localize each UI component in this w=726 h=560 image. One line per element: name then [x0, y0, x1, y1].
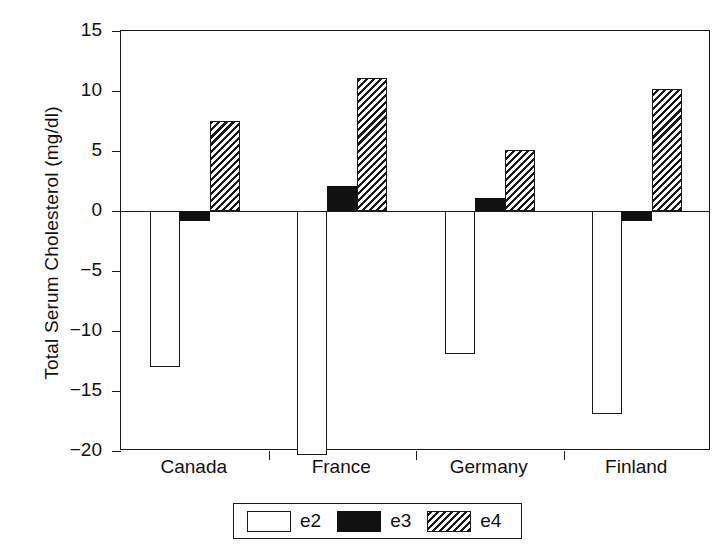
- legend-label-e4: e4: [480, 510, 501, 532]
- y-tick: [112, 31, 121, 32]
- bar-finland-e2: [592, 211, 622, 414]
- legend-swatch-e2: [247, 511, 291, 532]
- bar-finland-e4: [652, 89, 682, 211]
- bar-canada-e3: [180, 211, 210, 221]
- y-tick: [112, 331, 121, 332]
- y-tick: [112, 91, 121, 92]
- y-tick-label: 5: [38, 140, 102, 159]
- y-tick: [112, 271, 121, 272]
- chart-legend: e2e3e4: [233, 503, 522, 539]
- legend-swatch-e4: [427, 511, 471, 532]
- bar-germany-e2: [445, 211, 475, 354]
- y-tick: [112, 451, 121, 452]
- bar-france-e4: [357, 78, 387, 211]
- bar-finland-e3: [622, 211, 652, 221]
- y-tick-label: −10: [38, 320, 102, 339]
- bar-germany-e3: [475, 198, 505, 211]
- y-tick: [112, 391, 121, 392]
- legend-label-e2: e2: [300, 510, 321, 532]
- legend-label-e3: e3: [390, 510, 411, 532]
- bar-canada-e4: [210, 121, 240, 211]
- y-tick-label: 0: [38, 200, 102, 219]
- bar-france-e3: [327, 186, 357, 211]
- y-tick: [112, 211, 121, 212]
- x-label-germany: Germany: [409, 456, 569, 478]
- bar-germany-e4: [505, 150, 535, 211]
- x-label-canada: Canada: [114, 456, 274, 478]
- y-tick-label: 10: [38, 80, 102, 99]
- y-tick-label: −5: [38, 260, 102, 279]
- y-tick-label: −20: [38, 440, 102, 459]
- x-label-france: France: [261, 456, 421, 478]
- legend-swatch-e3: [337, 511, 381, 532]
- bar-france-e2: [297, 211, 327, 455]
- x-label-finland: Finland: [556, 456, 716, 478]
- y-tick-label: −15: [38, 380, 102, 399]
- y-tick-label: 15: [38, 20, 102, 39]
- plot-area: [120, 30, 710, 450]
- chart-figure: Total Serum Cholesterol (mg/dl) 151050−5…: [0, 0, 726, 560]
- bar-canada-e2: [150, 211, 180, 367]
- y-tick: [112, 151, 121, 152]
